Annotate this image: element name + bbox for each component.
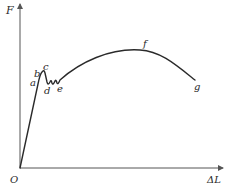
x-axis-label: ΔL — [206, 174, 221, 185]
point-label-f: f — [142, 38, 149, 49]
point-label-c: c — [43, 61, 49, 72]
y-axis-label: F — [5, 4, 14, 17]
point-label-b: b — [34, 68, 40, 79]
origin-label: O — [10, 174, 18, 185]
point-label-d: d — [44, 85, 50, 96]
point-label-g: g — [194, 81, 200, 92]
force-elongation-diagram: F ΔL O a b c d e f g — [0, 0, 230, 189]
point-label-e: e — [57, 83, 63, 94]
